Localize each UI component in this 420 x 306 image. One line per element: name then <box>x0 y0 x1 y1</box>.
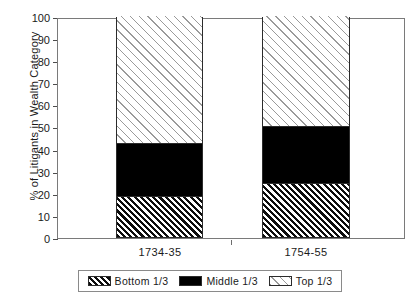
x-tick-label-1754-55: 1754-55 <box>264 246 348 258</box>
segment-divider <box>117 196 202 197</box>
x-tick-label-1734-35: 1734-35 <box>118 246 202 258</box>
y-tick-label: 20 <box>24 190 50 200</box>
y-tick-label: 10 <box>24 212 50 222</box>
legend-label-top: Top 1/3 <box>296 275 333 287</box>
legend-label-bottom: Bottom 1/3 <box>115 275 169 287</box>
stacked-bar-chart: % of Litigants in Wealth Category 100 90… <box>0 0 420 306</box>
y-tick-label: 50 <box>24 123 50 133</box>
segment-divider <box>263 183 349 184</box>
legend-swatch-top-icon <box>269 276 292 286</box>
y-tick-label: 100 <box>24 13 50 23</box>
chart-legend: Bottom 1/3 Middle 1/3 Top 1/3 <box>78 270 342 292</box>
bar-segment-middle-1754-55 <box>263 127 349 185</box>
bar-segment-top-1734-35 <box>117 16 202 144</box>
legend-swatch-middle-icon <box>179 276 202 286</box>
segment-divider <box>117 143 202 144</box>
y-tick-label: 40 <box>24 146 50 156</box>
bar-segment-top-1754-55 <box>263 16 349 127</box>
bar-segment-bottom-1754-55 <box>263 184 349 237</box>
y-tick-label: 30 <box>24 168 50 178</box>
y-tick-mark <box>53 239 58 240</box>
legend-item-bottom[interactable]: Bottom 1/3 <box>88 275 169 287</box>
y-tick-label: 60 <box>24 101 50 111</box>
y-tick-label: 80 <box>24 57 50 67</box>
plot-area <box>57 18 405 239</box>
x-tick-mark <box>231 240 232 245</box>
legend-item-middle[interactable]: Middle 1/3 <box>179 275 257 287</box>
y-tick-label: 90 <box>24 35 50 45</box>
bar-1734-35[interactable] <box>116 17 203 238</box>
bar-segment-bottom-1734-35 <box>117 197 202 237</box>
legend-item-top[interactable]: Top 1/3 <box>269 275 333 287</box>
legend-label-middle: Middle 1/3 <box>206 275 257 287</box>
legend-swatch-bottom-icon <box>88 276 111 286</box>
y-tick-label: 0 <box>24 234 50 244</box>
segment-divider <box>263 126 349 127</box>
y-tick-label: 70 <box>24 79 50 89</box>
bar-1754-55[interactable] <box>262 17 350 238</box>
bar-segment-middle-1734-35 <box>117 144 202 197</box>
